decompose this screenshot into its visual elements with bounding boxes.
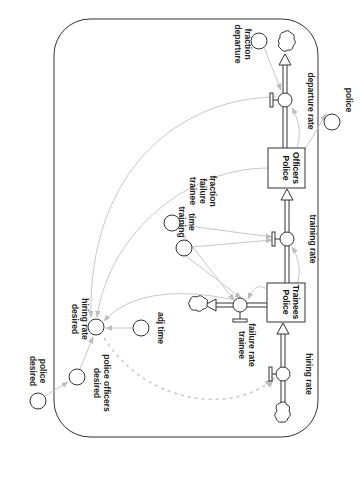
aux-police[interactable]: police (324, 88, 354, 130)
trainee-failure-rate-label-2: failure rate (247, 323, 257, 367)
hiring-flow-pipe (277, 323, 289, 408)
stock-police-officers-label-1: Police (281, 155, 291, 180)
stock-police-officers[interactable]: Police Officers (268, 148, 305, 188)
stock-police-officers-label-2: Officers (291, 152, 301, 184)
desired-police-label-2: police (38, 359, 48, 384)
valve-training-rate[interactable]: training rate (272, 214, 318, 263)
aux-desired-police-officers[interactable]: desired police officers (69, 354, 112, 412)
link-po-to-dr (292, 108, 299, 148)
aux-adj-time[interactable]: adj time (133, 312, 166, 344)
trainee-failure-rate-label-1: trainee (237, 331, 247, 359)
departure-rate-label: departure rate (306, 72, 316, 129)
stock-police-trainees-label-1: Police (281, 289, 291, 314)
hiring-rate-label: hiring rate (304, 353, 314, 395)
departure-fraction-label-2: fraction (243, 28, 253, 59)
link-desired-police-officers (80, 337, 93, 369)
trainee-failure-fraction-label-3: fraction (208, 175, 218, 206)
stock-police-trainees-label-2: Trainees (291, 285, 301, 320)
police-label: police (344, 88, 354, 113)
aux-departure-fraction[interactable]: departure fraction (233, 24, 267, 63)
link-desired-police (45, 382, 68, 396)
hiring-source-cloud-icon (275, 402, 291, 422)
trainee-failure-fraction-label-2: failure (198, 178, 208, 204)
stock-flow-diagram: Police Trainees Police Officers hiring r… (0, 0, 362, 498)
link-pt-to-tr (292, 247, 299, 284)
trainee-failure-sink-cloud-icon (189, 296, 208, 312)
valve-hiring-rate[interactable]: hiring rate (269, 353, 314, 395)
link-df-to-dr (264, 47, 281, 90)
link-tff-to-tfr (178, 228, 234, 300)
training-time-label-2: time (187, 213, 197, 231)
link-tt-to-tr (192, 240, 272, 247)
training-rate-label: training rate (308, 214, 318, 263)
desired-hiring-rate-label-1: desired (70, 304, 80, 334)
departure-fraction-label-1: departure (233, 24, 243, 63)
link-pt-to-tfr (248, 287, 268, 299)
valve-trainee-failure-rate[interactable]: trainee failure rate (233, 298, 257, 367)
departure-sink-cloud-icon (278, 31, 295, 52)
valve-departure-rate[interactable]: departure rate (270, 72, 316, 129)
desired-police-officers-label-2: police officers (102, 354, 112, 412)
desired-police-label-1: desired (28, 356, 38, 386)
stock-police-trainees[interactable]: Police Trainees (267, 283, 305, 322)
aux-desired-police[interactable]: desired police (28, 356, 48, 409)
adj-time-label: adj time (156, 312, 166, 344)
trainee-failure-fraction-label-1: trainee (188, 177, 198, 205)
desired-hiring-rate-label-2: hiring rate (80, 298, 90, 340)
link-tt-to-tfr (186, 256, 241, 298)
desired-police-officers-label-1: desired (92, 368, 102, 398)
